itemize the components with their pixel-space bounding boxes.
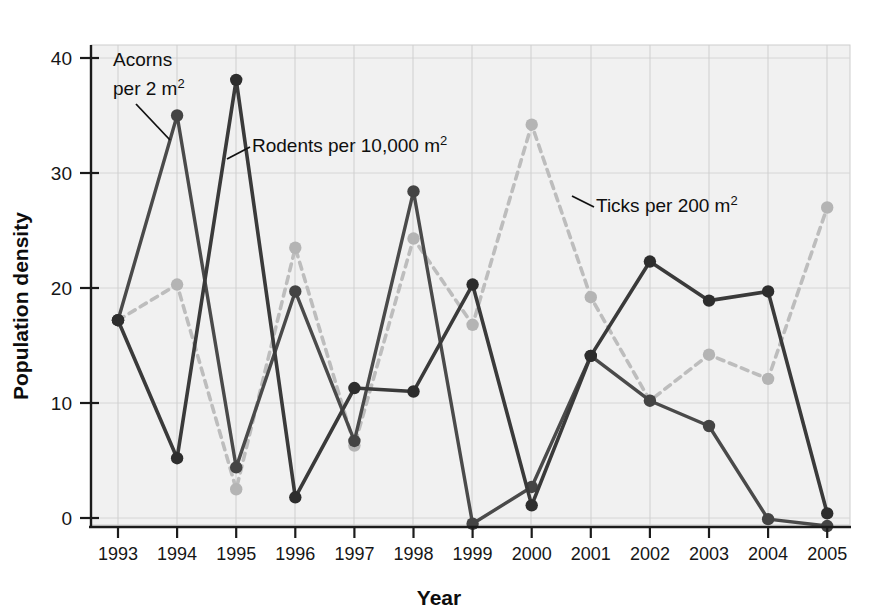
acorns-data-point — [230, 461, 242, 473]
rodents-label: Rodents per 10,000 m2 — [252, 133, 447, 156]
ticks-data-point — [171, 278, 183, 290]
rodents-data-point — [348, 382, 360, 394]
population-density-line-chart: 40 30 20 10 0 Population density 1993199… — [0, 0, 878, 615]
x-tick-label: 1994 — [157, 544, 197, 564]
rodents-data-point — [171, 452, 183, 464]
rodents-data-point — [289, 491, 301, 503]
y-tick-label: 40 — [51, 48, 72, 69]
ticks-data-point — [407, 232, 419, 244]
x-axis-tick-labels: 1993199419951996199719981999200020012002… — [98, 544, 847, 564]
acorns-data-point — [407, 185, 419, 197]
y-tick-label: 0 — [61, 508, 72, 529]
acorns-data-point — [289, 285, 301, 297]
y-tick-label: 10 — [51, 393, 72, 414]
y-axis-title: Population density — [9, 212, 32, 400]
rodents-data-point — [703, 294, 715, 306]
x-axis-ticks — [118, 527, 827, 538]
acorns-data-point — [171, 109, 183, 121]
x-tick-label: 2000 — [512, 544, 552, 564]
rodents-data-point — [112, 314, 124, 326]
y-axis-tick-labels: 40 30 20 10 0 — [51, 48, 72, 529]
ticks-data-point — [585, 291, 597, 303]
ticks-data-point — [526, 119, 538, 131]
rodents-data-point — [644, 255, 656, 267]
ticks-label: Ticks per 200 m2 — [596, 193, 738, 216]
rodents-annotation: Rodents per 10,000 m2 — [227, 133, 447, 159]
acorns-label-text: per 2 m — [113, 78, 177, 99]
y-tick-label: 20 — [51, 278, 72, 299]
ticks-data-point — [466, 319, 478, 331]
acorns-data-point — [703, 420, 715, 432]
ticks-label-text: Ticks per 200 m — [596, 195, 730, 216]
rodents-label-text: Rodents per 10,000 m — [252, 135, 440, 156]
ticks-data-point — [289, 242, 301, 254]
rodents-label-sup: 2 — [440, 133, 447, 148]
x-tick-label: 1999 — [453, 544, 493, 564]
x-tick-label: 1997 — [334, 544, 374, 564]
acorns-data-point — [762, 513, 774, 525]
chart-root: 40 30 20 10 0 Population density 1993199… — [0, 0, 878, 615]
acorns-data-point — [644, 395, 656, 407]
x-tick-label: 1993 — [98, 544, 138, 564]
x-tick-label: 1995 — [216, 544, 256, 564]
ticks-data-point — [821, 201, 833, 213]
x-tick-label: 1998 — [393, 544, 433, 564]
x-tick-label: 2003 — [689, 544, 729, 564]
rodents-data-point — [821, 507, 833, 519]
rodents-data-point — [585, 350, 597, 362]
y-tick-label: 30 — [51, 163, 72, 184]
x-axis-title: Year — [417, 586, 461, 609]
rodents-data-point — [230, 74, 242, 86]
ticks-data-point — [703, 349, 715, 361]
acorns-label-sup: 2 — [177, 76, 184, 91]
rodents-data-point — [407, 385, 419, 397]
x-tick-label: 1996 — [275, 544, 315, 564]
ticks-label-sup: 2 — [730, 193, 737, 208]
x-tick-label: 2004 — [748, 544, 788, 564]
x-tick-label: 2001 — [571, 544, 611, 564]
acorns-data-point — [348, 435, 360, 447]
ticks-data-point — [762, 373, 774, 385]
ticks-data-point — [230, 483, 242, 495]
x-tick-label: 2002 — [630, 544, 670, 564]
rodents-data-point — [466, 278, 478, 290]
x-tick-label: 2005 — [807, 544, 847, 564]
acorns-label-line2: per 2 m2 — [113, 76, 185, 99]
rodents-data-point — [762, 285, 774, 297]
rodents-data-point — [526, 499, 538, 511]
acorns-label-line1: Acorns — [113, 49, 172, 70]
ticks-annotation: Ticks per 200 m2 — [572, 193, 738, 216]
